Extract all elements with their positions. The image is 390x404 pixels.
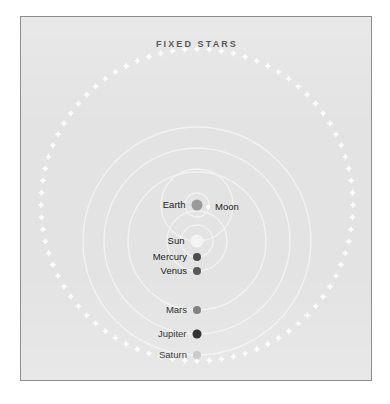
- diagram-plate: FIXED STARS EarthMoonSunMercuryVenusMars…: [20, 16, 372, 381]
- mars-dot: [193, 306, 201, 314]
- star-icon: [327, 283, 334, 290]
- star-icon: [67, 293, 74, 300]
- star-icon: [275, 69, 282, 76]
- star-icon: [333, 131, 340, 138]
- star-icon: [206, 357, 213, 364]
- star-icon: [349, 214, 356, 221]
- star-icon: [83, 312, 90, 319]
- moon-dot: [206, 205, 210, 209]
- saturn-label: Saturn: [159, 350, 187, 360]
- star-icon: [134, 57, 141, 64]
- star-icon: [295, 83, 302, 90]
- star-icon: [342, 153, 349, 160]
- mercury-label: Mercury: [153, 252, 187, 262]
- earth-label: Earth: [163, 200, 186, 210]
- figure-canvas: FIXED STARS EarthMoonSunMercuryVenusMars…: [0, 0, 390, 404]
- star-icon: [320, 110, 327, 117]
- star-icon: [75, 303, 82, 310]
- star-icon: [253, 346, 260, 353]
- saturn-dot: [193, 351, 201, 359]
- star-icon: [38, 202, 45, 209]
- moon-label: Moon: [215, 202, 239, 212]
- star-icon: [123, 341, 130, 348]
- star-icon: [295, 320, 302, 327]
- star-icon: [275, 335, 282, 342]
- star-icon: [320, 293, 327, 300]
- star-icon: [312, 100, 319, 107]
- star-icon: [327, 120, 334, 127]
- star-icon: [242, 53, 249, 60]
- star-icon: [102, 75, 109, 82]
- star-icon: [230, 353, 237, 360]
- star-icon: [348, 226, 355, 233]
- earth-dot: [192, 200, 203, 211]
- star-icon: [312, 303, 319, 310]
- star-icon: [304, 312, 311, 319]
- star-icon: [112, 335, 119, 342]
- star-icon: [145, 53, 152, 60]
- star-icon: [102, 328, 109, 335]
- star-icon: [61, 120, 68, 127]
- star-icon: [145, 350, 152, 357]
- star-icon: [75, 100, 82, 107]
- star-icon: [285, 328, 292, 335]
- star-icon: [218, 356, 225, 363]
- star-icon: [134, 346, 141, 353]
- star-icon: [38, 189, 45, 196]
- star-icon: [92, 320, 99, 327]
- figure-title: FIXED STARS: [21, 39, 371, 49]
- star-icon: [230, 50, 237, 57]
- star-icon: [55, 272, 62, 279]
- star-icon: [264, 63, 271, 70]
- star-icon: [349, 189, 356, 196]
- star-icon: [61, 283, 68, 290]
- star-icon: [42, 238, 49, 245]
- star-icon: [45, 153, 52, 160]
- star-icon: [123, 63, 130, 70]
- star-icon: [83, 91, 90, 98]
- star-icon: [342, 250, 349, 257]
- mars-label: Mars: [166, 305, 187, 315]
- star-icon: [40, 226, 47, 233]
- star-icon: [333, 272, 340, 279]
- star-icon: [45, 250, 52, 257]
- sun-dot: [191, 235, 204, 248]
- venus-label: Venus: [161, 266, 187, 276]
- star-icon: [49, 142, 56, 149]
- star-icon: [112, 69, 119, 76]
- star-icon: [55, 131, 62, 138]
- mercury-dot: [193, 253, 201, 261]
- star-icon: [253, 57, 260, 64]
- star-icon: [92, 83, 99, 90]
- star-icon: [285, 75, 292, 82]
- star-icon: [40, 177, 47, 184]
- star-icon: [42, 165, 49, 172]
- star-icon: [348, 177, 355, 184]
- star-icon: [304, 91, 311, 98]
- venus-dot: [193, 267, 201, 275]
- jupiter-dot: [193, 330, 202, 339]
- star-icon: [338, 142, 345, 149]
- jupiter-label: Jupiter: [158, 329, 187, 339]
- star-icon: [157, 50, 164, 57]
- star-icon: [38, 214, 45, 221]
- star-icon: [67, 110, 74, 117]
- star-icon: [49, 261, 56, 268]
- star-icon: [338, 261, 345, 268]
- star-icon: [345, 238, 352, 245]
- star-icon: [350, 202, 357, 209]
- star-icon: [242, 350, 249, 357]
- star-icon: [264, 341, 271, 348]
- sun-label: Sun: [168, 236, 185, 246]
- star-icon: [345, 165, 352, 172]
